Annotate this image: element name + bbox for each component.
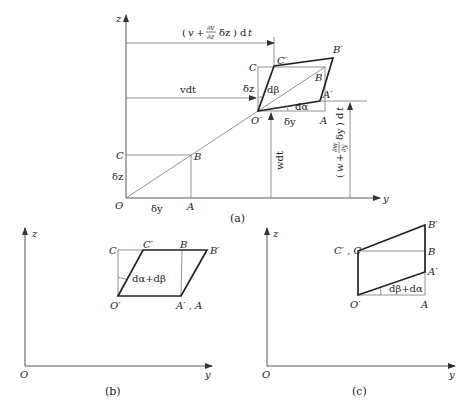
edge-b-a-b [181,250,182,296]
point-aprime-c: A′ [427,266,438,277]
y-label-a: y [382,193,389,204]
y-label-b: y [204,369,211,380]
point-c-label: C [116,150,124,161]
trajectory-line [126,111,258,198]
point-cprime-c-c: C′ , C [334,245,361,256]
z-label-b: z [31,228,38,239]
dy-lower-label: δy [151,203,163,214]
dalpha-label: dα [295,101,308,112]
point-cprime-b: C′ [143,239,154,250]
dbeta-label: dβ [267,84,279,95]
w-right-label: ( w + ∂w ∂y δy ) d t (w + ∂w/∂y δy) dt [331,106,348,178]
point-c-b: C [109,245,117,256]
svg-text:+: + [334,154,345,162]
point-oprime-c: O′ [350,299,361,310]
figure-c: z y O C′ , C B′ B A′ O′ A dβ+dα (c) [262,219,455,398]
point-oprime-b: O′ [110,300,121,311]
z-label-c: z [272,228,279,239]
svg-text:(: ( [334,174,345,178]
svg-text:t: t [334,106,345,111]
svg-text:∂y: ∂y [340,143,348,152]
origin-label-b: O [20,369,28,380]
point-b-label: B [193,151,201,162]
point-cprime-label: C′ [277,55,288,66]
caption-b: (b) [105,385,121,398]
y-label-c: y [448,369,455,380]
svg-text:+: + [196,27,204,38]
angle-arc-c [380,288,381,295]
point-aprime-label: A′ [322,89,333,100]
svg-text:) d: ) d [334,112,345,126]
svg-text:t: t [248,27,253,38]
origin-label-a: O [115,200,123,211]
point-b-b: B [179,239,187,250]
angle-arc-b [118,277,126,279]
z-label-a: z [115,13,122,24]
angle-label-b: dα+dβ [132,273,166,284]
point-c-upper-label: C [249,62,257,73]
v-top-label: ( v + ∂v ∂z δz ) d t (v + ∂v/∂z δz) dt [182,24,253,41]
point-aprime-a-b: A′ , A [175,300,202,311]
dy-upper-label: δy [284,116,296,127]
vdt-label: vdt [179,84,196,95]
svg-text:∂z: ∂z [207,33,215,41]
point-b-upper-label: B [314,72,322,83]
figure-b: z y O C C′ B B′ O′ A′ , A dα+dβ (b) [20,228,220,398]
point-bprime-b: B′ [209,245,220,256]
point-a-upper-label: A [319,115,327,126]
svg-text:∂v: ∂v [207,24,215,32]
svg-text:(: ( [182,27,186,38]
svg-text:∂w: ∂w [331,142,339,152]
angle-label-c: dβ+dα [389,283,423,294]
wdt-label: wdt [274,151,285,170]
caption-a: (a) [230,212,245,225]
fluid-element-deformation-diagram: z y O C B A δz δy C C′ B′ B A′ O′ A δz δ… [0,0,475,415]
point-bprime-label: B′ [332,44,343,55]
svg-text:δy: δy [334,128,345,140]
svg-text:w: w [334,163,345,172]
svg-text:δz: δz [219,27,230,38]
point-oprime-label: O′ [251,115,262,126]
svg-text:) d: ) d [233,27,247,38]
caption-c: (c) [352,385,367,398]
point-a-label: A [186,201,194,212]
svg-text:v: v [188,27,194,38]
dz-upper-label: δz [243,83,254,94]
point-bprime-c: B′ [427,219,438,230]
point-a-c: A [420,299,428,310]
origin-label-c: O [262,369,270,380]
point-b-c: B [427,246,435,257]
figure-a: z y O C B A δz δy C C′ B′ B A′ O′ A δz δ… [112,13,389,225]
dz-lower-label: δz [112,171,123,182]
